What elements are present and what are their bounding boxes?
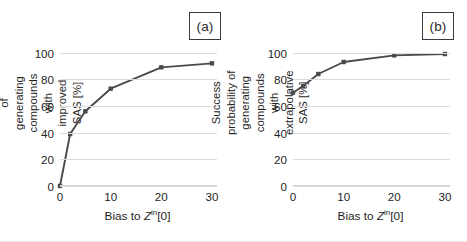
gridline xyxy=(293,186,450,187)
y-axis-tick-label: 0 xyxy=(48,180,54,193)
x-axis-line xyxy=(293,185,450,186)
y-axis-tick-label: 20 xyxy=(41,153,54,166)
gridline xyxy=(293,106,450,107)
x-axis-tick-label: 10 xyxy=(337,190,350,203)
x-axis-title-b-var: Z xyxy=(377,209,384,223)
x-axis-title-a-prefix: Bias to xyxy=(105,209,144,223)
figure-two-panel-line-charts: (a) Success probability of generating co… xyxy=(0,0,467,242)
series-line-a xyxy=(60,46,217,186)
panel-b: (b) Success probability of generating co… xyxy=(233,0,466,241)
data-point-marker xyxy=(392,53,396,57)
data-line xyxy=(60,63,212,186)
y-axis-tick-label: 60 xyxy=(41,100,54,113)
x-axis-title-b: Bias to Zin[0] xyxy=(281,208,460,223)
x-axis-title-a-var: Z xyxy=(144,209,151,223)
gridline xyxy=(60,133,217,134)
gridline xyxy=(60,53,217,54)
x-axis-tick-label: 0 xyxy=(57,190,63,203)
data-point-marker xyxy=(301,84,305,88)
x-axis-tick-label: 10 xyxy=(104,190,117,203)
y-axis-tick-label: 40 xyxy=(274,126,287,139)
x-axis-title-b-prefix: Bias to xyxy=(338,209,377,223)
data-point-marker xyxy=(341,60,345,64)
x-axis-line xyxy=(60,185,217,186)
data-point-marker xyxy=(210,61,214,65)
x-axis-tick-label: 30 xyxy=(438,190,451,203)
y-axis-tick-label: 20 xyxy=(274,153,287,166)
panel-label-a: (a) xyxy=(189,12,221,40)
gridline xyxy=(293,133,450,134)
gridline xyxy=(60,79,217,80)
gridline xyxy=(293,53,450,54)
data-point-marker xyxy=(108,86,112,90)
x-axis-tick-label: 20 xyxy=(388,190,401,203)
gridline xyxy=(60,159,217,160)
plot-area-a: 0204060801000102030 xyxy=(60,46,217,186)
panel-label-b: (b) xyxy=(422,12,454,40)
x-axis-tick-label: 0 xyxy=(290,190,296,203)
data-line xyxy=(293,54,445,93)
y-axis-tick-label: 80 xyxy=(274,73,287,86)
x-axis-title-a: Bias to Zin[0] xyxy=(48,208,227,223)
gridline xyxy=(293,79,450,80)
data-point-marker xyxy=(159,65,163,69)
y-axis-tick-label: 0 xyxy=(281,180,287,193)
plot-area-b: 0204060801000102030 xyxy=(293,46,450,186)
x-axis-title-a-suffix: [0] xyxy=(157,209,170,223)
y-axis-tick-label: 80 xyxy=(41,73,54,86)
gridline xyxy=(60,186,217,187)
y-axis-tick-label: 40 xyxy=(41,126,54,139)
series-line-b xyxy=(293,46,450,186)
gridline xyxy=(60,106,217,107)
x-axis-tick-label: 20 xyxy=(155,190,168,203)
panel-a: (a) Success probability of generating co… xyxy=(0,0,233,241)
y-axis-tick-label: 100 xyxy=(268,46,287,59)
x-axis-tick-label: 30 xyxy=(205,190,218,203)
data-point-marker xyxy=(316,72,320,76)
y-axis-tick-label: 100 xyxy=(35,46,54,59)
x-axis-title-b-suffix: [0] xyxy=(390,209,403,223)
gridline xyxy=(293,159,450,160)
data-point-marker xyxy=(83,109,87,113)
y-axis-tick-label: 60 xyxy=(274,100,287,113)
data-point-marker xyxy=(291,90,295,94)
